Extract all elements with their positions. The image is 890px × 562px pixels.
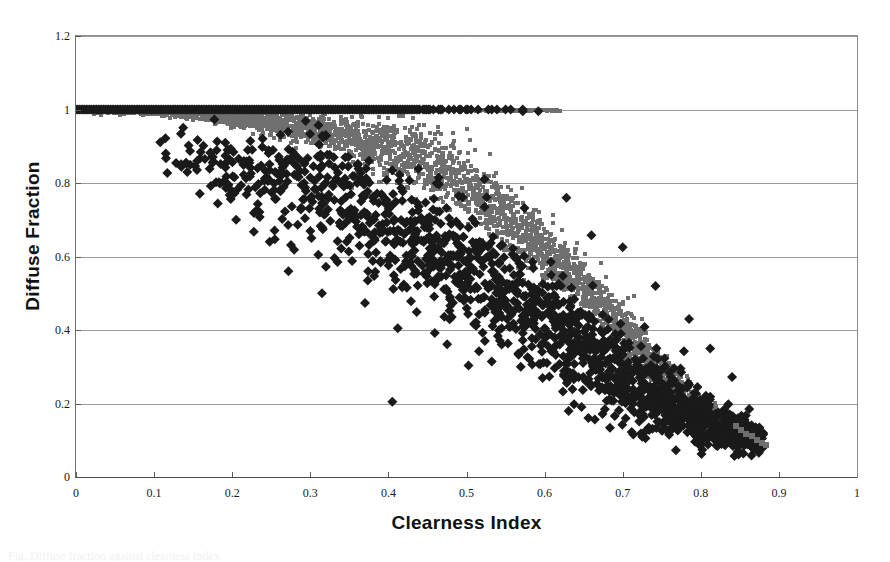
x-tick-label: 0.7 (603, 486, 643, 501)
x-tick-label: 0.4 (368, 486, 408, 501)
scatter-plot-canvas (76, 36, 857, 477)
y-tick-label: 0 (34, 471, 70, 483)
figure-caption-partial: Fig. Diffuse fraction against clearness … (8, 549, 438, 561)
x-tick-label: 0 (56, 486, 96, 501)
y-tick-label: 1.2 (34, 30, 70, 42)
x-tick-label: 0.8 (681, 486, 721, 501)
x-axis-tick-labels: 00.10.20.30.40.50.60.70.80.91 (0, 486, 890, 504)
y-axis-title: Diffuse Fraction (22, 111, 44, 361)
x-tick-label: 0.5 (447, 486, 487, 501)
x-tick-label: 0.2 (212, 486, 252, 501)
plot-area (75, 35, 858, 478)
y-tick-label: 0.2 (34, 398, 70, 410)
x-tick-label: 0.9 (759, 486, 799, 501)
x-tick-label: 1 (837, 486, 877, 501)
figure-container: 00.20.40.60.811.2 00.10.20.30.40.50.60.7… (0, 0, 890, 562)
x-tick-label: 0.6 (525, 486, 565, 501)
x-tick-label: 0.3 (290, 486, 330, 501)
x-axis-title: Clearness Index (75, 512, 858, 534)
x-tick-label: 0.1 (134, 486, 174, 501)
